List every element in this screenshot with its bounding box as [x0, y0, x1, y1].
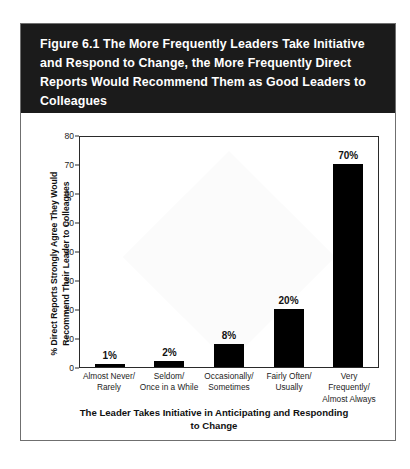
bar — [95, 364, 125, 367]
figure-container: Figure 6.1 The More Frequently Leaders T… — [20, 23, 396, 441]
figure-title: Figure 6.1 The More Frequently Leaders T… — [40, 35, 381, 110]
bar-slot: 2% — [140, 137, 200, 367]
bar-value-label: 8% — [222, 330, 236, 341]
bar — [333, 164, 363, 367]
y-axis-tick-label: 0 — [69, 363, 74, 373]
plot-area: 1%2%8%20%70% — [79, 136, 379, 368]
y-axis-tick-label: 20 — [64, 305, 74, 315]
y-axis-tick-label: 60 — [64, 189, 74, 199]
y-axis-tick-label: 10 — [64, 334, 74, 344]
bar-value-label: 20% — [279, 295, 299, 306]
x-axis-tick-label: Fairly Often/ Usually — [259, 371, 319, 405]
x-axis-tick-label: Occasionally/ Sometimes — [199, 371, 259, 405]
y-axis-tick-label: 80 — [64, 131, 74, 141]
bar-value-label: 2% — [162, 347, 176, 358]
bar-value-label: 70% — [338, 150, 358, 161]
bar-slot: 20% — [259, 137, 319, 367]
y-axis-ticks: 01020304050607080 — [51, 136, 79, 368]
bar-slot: 1% — [80, 137, 140, 367]
bar-value-label: 1% — [103, 350, 117, 361]
y-axis-tick-label: 30 — [64, 276, 74, 286]
figure-title-band: Figure 6.1 The More Frequently Leaders T… — [21, 24, 395, 113]
bar — [214, 344, 244, 367]
y-axis-tick-label: 50 — [64, 218, 74, 228]
y-axis-tick-label: 40 — [64, 247, 74, 257]
x-axis-tick-label: Very Frequently/ Almost Always — [319, 371, 379, 405]
x-axis-tick-label: Almost Never/ Rarely — [79, 371, 139, 405]
x-axis-title: The Leader Takes Initiative in Anticipat… — [49, 406, 379, 433]
bar — [274, 309, 304, 367]
bar-slot: 70% — [318, 137, 378, 367]
bar-slot: 8% — [199, 137, 259, 367]
bars-layer: 1%2%8%20%70% — [80, 137, 378, 367]
x-axis-tick-labels: Almost Never/ RarelySeldom/ Once in a Wh… — [79, 371, 379, 405]
y-axis-tick-label: 70 — [64, 160, 74, 170]
x-axis-tick-label: Seldom/ Once in a While — [139, 371, 199, 405]
bar — [154, 361, 184, 367]
chart-body: % Direct Reports Strongly Agree They Wou… — [21, 113, 395, 442]
